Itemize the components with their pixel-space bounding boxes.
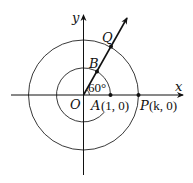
label-A: A <box>90 98 100 113</box>
label-Q: Q <box>102 30 113 45</box>
label-P: P <box>139 98 149 113</box>
coordinate-diagram: y x O 60° B Q A (1, 0) P (k, 0) <box>0 0 193 183</box>
diagram-canvas: y x O 60° B Q A (1, 0) P (k, 0) <box>0 0 193 183</box>
origin-label: O <box>70 97 81 112</box>
point-Q <box>109 45 113 49</box>
label-B: B <box>88 56 99 71</box>
point-A <box>109 93 113 97</box>
x-axis-label: x <box>175 79 183 94</box>
angle-label: 60° <box>88 80 106 95</box>
coords-A: (1, 0) <box>101 98 129 113</box>
y-axis-label: y <box>71 10 80 25</box>
coords-P: (k, 0) <box>149 98 177 113</box>
point-P <box>137 93 141 97</box>
